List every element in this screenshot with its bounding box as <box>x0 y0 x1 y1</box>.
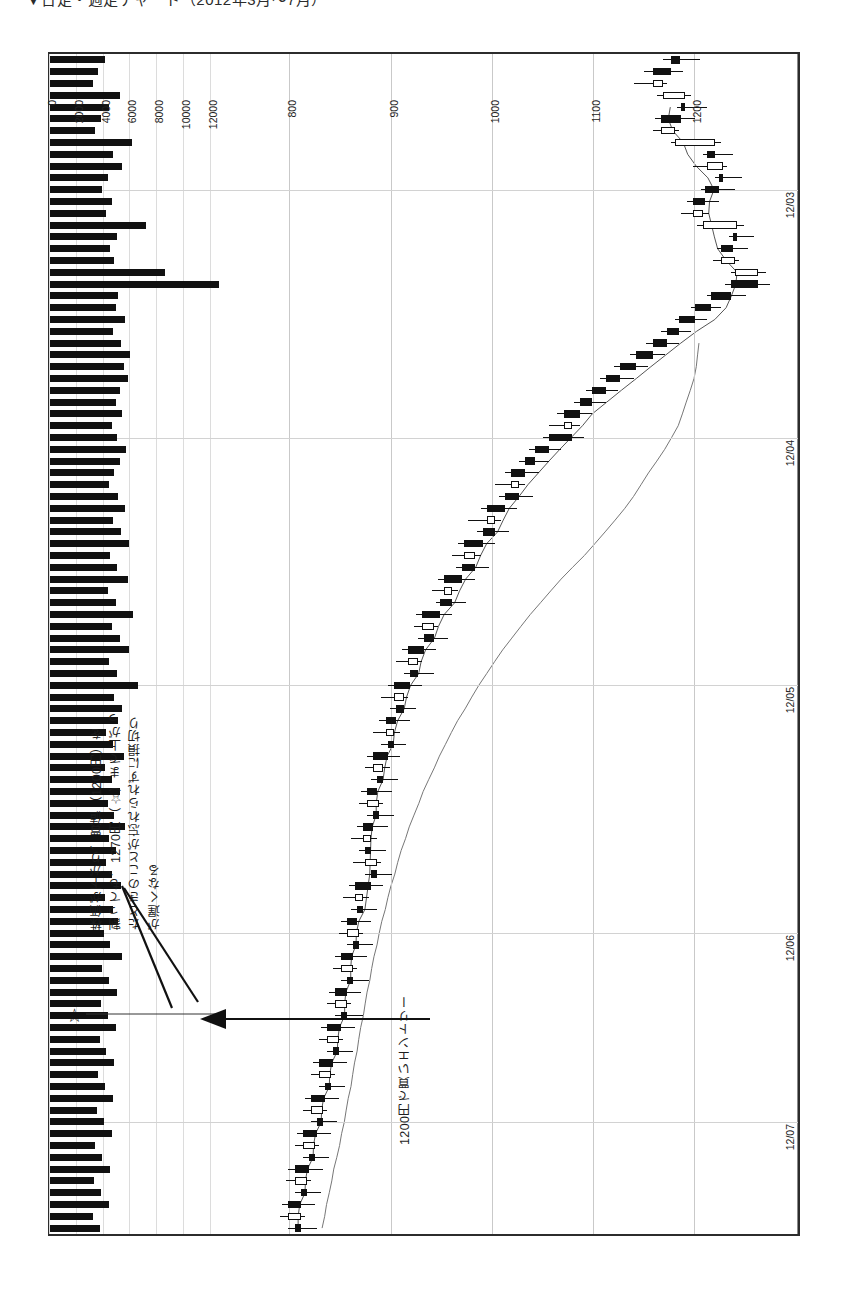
candle-body-bearish <box>311 1095 325 1102</box>
volume-bar <box>50 1083 105 1090</box>
candlestick <box>238 988 798 995</box>
star-marker: ☆ <box>66 1006 83 1025</box>
candlestick <box>238 1189 798 1196</box>
candlestick <box>238 127 798 134</box>
volume-tick-label: 2000 <box>73 100 85 123</box>
volume-gridline <box>76 54 77 1234</box>
candlestick <box>238 481 798 488</box>
candle-body-bearish <box>731 280 757 287</box>
candle-wick <box>365 874 391 875</box>
candlestick <box>238 198 798 205</box>
candlestick <box>238 835 798 842</box>
candle-body-bearish <box>388 741 394 748</box>
candle-body-bullish <box>386 729 394 736</box>
candle-wick <box>319 1086 345 1087</box>
candle-body-bearish <box>483 528 495 535</box>
volume-bar <box>50 269 165 276</box>
volume-bar <box>50 493 118 500</box>
volume-tick-label: 8000 <box>153 100 165 123</box>
candle-body-bearish <box>671 56 680 63</box>
volume-bar <box>50 1130 112 1137</box>
candlestick <box>238 1095 798 1102</box>
candle-wick <box>495 484 525 485</box>
candlestick <box>238 1177 798 1184</box>
candlestick <box>238 446 798 453</box>
volume-bar <box>50 139 132 146</box>
candle-body-bearish <box>679 316 695 323</box>
candlestick <box>238 422 798 429</box>
candle-body-bullish <box>675 139 715 146</box>
volume-bar <box>50 528 121 535</box>
candle-body-bullish <box>653 80 663 87</box>
candlestick <box>238 882 798 889</box>
candlestick <box>238 363 798 370</box>
candle-body-bullish <box>295 1177 307 1184</box>
candle-body-bullish <box>663 92 685 99</box>
candle-body-bearish <box>424 634 434 641</box>
volume-bar <box>50 540 129 547</box>
candlestick <box>238 682 798 689</box>
candlestick <box>238 115 798 122</box>
volume-bar <box>50 1107 97 1114</box>
candlestick <box>238 56 798 63</box>
candlestick <box>238 1036 798 1043</box>
candle-body-bearish <box>511 469 525 476</box>
candle-body-bullish <box>365 859 377 866</box>
candlestick <box>238 387 798 394</box>
volume-bar <box>50 965 102 972</box>
volume-bar <box>50 1201 109 1208</box>
volume-bar <box>50 387 120 394</box>
volume-bar <box>50 186 102 193</box>
volume-bar <box>50 587 108 594</box>
candle-body-bearish <box>394 682 410 689</box>
candle-body-bearish <box>295 1165 309 1172</box>
candle-wick <box>663 59 700 60</box>
candlestick <box>238 1012 798 1019</box>
volume-bar <box>50 989 117 996</box>
candlestick <box>238 339 798 346</box>
volume-gridline <box>183 54 184 1234</box>
candle-body-bearish <box>301 1189 307 1196</box>
volume-bar <box>50 174 108 181</box>
candlestick <box>238 776 798 783</box>
candle-body-bearish <box>303 1130 317 1137</box>
candlestick <box>238 280 798 287</box>
candle-body-bullish <box>303 1142 315 1149</box>
candlestick <box>238 410 798 417</box>
volume-bar <box>50 68 98 75</box>
volume-bar <box>50 469 114 476</box>
candlestick <box>238 717 798 724</box>
candlestick <box>238 894 798 901</box>
volume-bar <box>50 399 116 406</box>
candlestick <box>238 764 798 771</box>
candlestick <box>238 859 798 866</box>
volume-bar <box>50 281 219 288</box>
volume-bar <box>50 481 109 488</box>
candlestick <box>238 540 798 547</box>
candlestick <box>238 245 798 252</box>
candlestick <box>238 918 798 925</box>
candlestick <box>238 292 798 299</box>
volume-bar <box>50 127 96 134</box>
candle-body-bearish <box>606 375 620 382</box>
candlestick <box>238 965 798 972</box>
volume-bar <box>50 1166 110 1173</box>
candle-body-bullish <box>355 894 363 901</box>
candle-body-bearish <box>333 1047 339 1054</box>
candlestick <box>238 564 798 571</box>
candle-body-bearish <box>693 198 705 205</box>
candle-body-bearish <box>653 339 667 346</box>
candlestick <box>238 1071 798 1078</box>
candle-wick <box>404 673 434 674</box>
candle-body-bearish <box>347 977 353 984</box>
candlestick <box>238 1154 798 1161</box>
volume-bar <box>50 151 113 158</box>
candle-body-bearish <box>335 988 347 995</box>
candle-body-bullish <box>367 800 379 807</box>
candle-body-bearish <box>355 882 371 889</box>
volume-gridline <box>210 54 211 1234</box>
candle-body-bearish <box>462 564 474 571</box>
volume-bar <box>50 1059 114 1066</box>
volume-gridline <box>49 54 50 1234</box>
candlestick <box>238 941 798 948</box>
